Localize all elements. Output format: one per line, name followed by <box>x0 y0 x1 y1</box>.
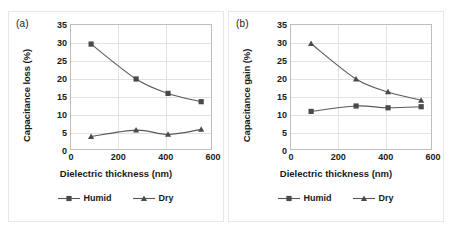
x-axis-tick-label: 200 <box>331 152 346 162</box>
x-axis-tick-label: 400 <box>158 152 173 162</box>
figure-two-panel-line-charts: (a) Capacitance loss (%) 051015202530350… <box>0 0 452 235</box>
y-axis-tick-label: 20 <box>57 74 67 84</box>
x-axis-tick-label: 0 <box>68 152 73 162</box>
y-axis-tick-label: 10 <box>57 110 67 120</box>
legend-item-dry[interactable]: Dry <box>353 193 393 203</box>
legend-label: Humid <box>83 193 111 203</box>
y-axis-tick-label: 35 <box>277 20 287 30</box>
y-axis-tick-label: 20 <box>277 74 287 84</box>
panel-b-x-axis-title: Dielectric thickness (nm) <box>229 168 443 179</box>
panel-b-plot-area: 051015202530350200400600 <box>290 24 432 150</box>
x-axis-tick-label: 600 <box>205 152 220 162</box>
y-axis-tick-label: 5 <box>282 128 287 138</box>
y-axis-tick-label: 25 <box>277 56 287 66</box>
panel-a: (a) Capacitance loss (%) 051015202530350… <box>8 11 224 222</box>
legend-item-dry[interactable]: Dry <box>133 193 173 203</box>
y-axis-tick-label: 35 <box>57 20 67 30</box>
panel-a-x-axis-title: Dielectric thickness (nm) <box>9 168 223 179</box>
legend-square-marker-icon <box>278 194 300 203</box>
panel-b-legend: HumidDry <box>229 193 443 203</box>
y-axis-tick-label: 10 <box>277 110 287 120</box>
y-axis-tick-label: 30 <box>277 38 287 48</box>
x-axis-tick-label: 200 <box>111 152 126 162</box>
panel-a-y-axis-title: Capacitance loss (%) <box>21 32 32 160</box>
y-axis-tick-label: 25 <box>57 56 67 66</box>
legend-triangle-marker-icon <box>353 194 375 203</box>
x-axis-tick-label: 0 <box>288 152 293 162</box>
legend-item-humid[interactable]: Humid <box>58 193 111 203</box>
panel-a-label: (a) <box>16 18 29 29</box>
legend-item-humid[interactable]: Humid <box>278 193 331 203</box>
legend-square-marker-icon <box>58 194 80 203</box>
y-axis-tick-label: 15 <box>57 92 67 102</box>
legend-label: Dry <box>378 193 393 203</box>
legend-label: Humid <box>303 193 331 203</box>
panel-b-label: (b) <box>236 18 249 29</box>
y-axis-tick-label: 0 <box>282 146 287 156</box>
panel-b: (b) Capacitance gain (%) 051015202530350… <box>228 11 444 222</box>
panel-a-plot-area: 051015202530350200400600 <box>70 24 212 150</box>
panel-b-y-axis-title: Capacitance gain (%) <box>241 32 252 160</box>
y-axis-tick-label: 0 <box>62 146 67 156</box>
y-axis-tick-label: 30 <box>57 38 67 48</box>
x-axis-tick-label: 400 <box>378 152 393 162</box>
panel-a-legend: HumidDry <box>9 193 223 203</box>
y-axis-tick-label: 15 <box>277 92 287 102</box>
legend-label: Dry <box>158 193 173 203</box>
legend-triangle-marker-icon <box>133 194 155 203</box>
y-axis-tick-label: 5 <box>62 128 67 138</box>
x-axis-tick-label: 600 <box>425 152 440 162</box>
